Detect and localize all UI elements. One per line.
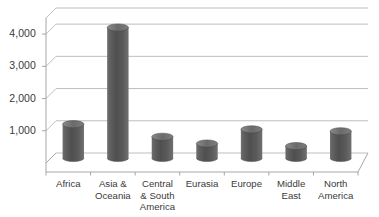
bar-column	[285, 142, 306, 161]
bar-column	[241, 126, 262, 162]
gridline	[46, 89, 368, 99]
bar-column	[196, 140, 217, 162]
bar-column	[107, 24, 128, 162]
bar-column	[63, 121, 84, 162]
y-axis-tick-label: 2,000	[2, 92, 36, 104]
gridline	[46, 24, 368, 34]
bar-column	[152, 133, 173, 161]
gridline	[46, 8, 368, 18]
y-axis-tick-label: 3,000	[2, 59, 36, 71]
bar-column	[330, 128, 351, 162]
gridline	[46, 56, 368, 66]
x-axis-ticks	[46, 172, 358, 176]
y-axis-line	[42, 18, 46, 163]
bar-chart: 1,0002,0003,0004,000 AfricaAsia & Oceani…	[0, 0, 379, 217]
x-axis-category-label: North America	[308, 178, 363, 201]
gridline	[46, 121, 368, 131]
y-axis-tick-label: 4,000	[2, 27, 36, 39]
y-axis-tick-label: 1,000	[2, 124, 36, 136]
